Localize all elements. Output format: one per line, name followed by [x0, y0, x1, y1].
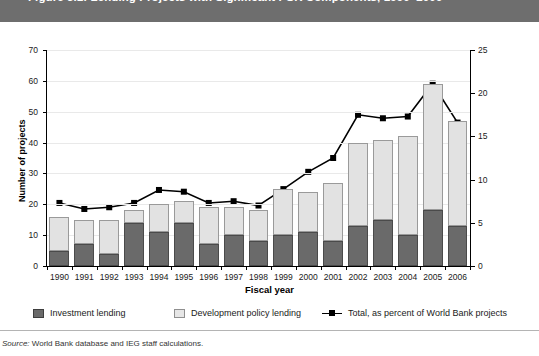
bar-segment-investment-lending[interactable] [398, 235, 418, 266]
bar-segment-investment-lending[interactable] [298, 232, 318, 266]
y-axis-right-tick [471, 50, 475, 51]
x-axis-tick [420, 266, 421, 270]
legend-item-development-policy-lending: Development policy lending [174, 308, 301, 318]
bar-group [47, 50, 470, 266]
x-axis-tick [97, 266, 98, 270]
y-axis-left-title: Number of projects [17, 119, 27, 202]
y-axis-right-tick-label: 0 [478, 261, 502, 271]
x-axis-tick [271, 266, 272, 270]
bar-segment-development-policy-lending[interactable] [373, 140, 393, 220]
bar-segment-development-policy-lending[interactable] [224, 207, 244, 235]
bar-segment-investment-lending[interactable] [249, 241, 269, 266]
x-axis-tick [196, 266, 197, 270]
x-axis-tick [246, 266, 247, 270]
x-axis-tick [321, 266, 322, 270]
y-axis-right-tick [471, 223, 475, 224]
bar-segment-development-policy-lending[interactable] [149, 204, 169, 232]
legend-item-total-percent: Total, as percent of World Bank projects [322, 308, 507, 318]
chart-legend: Investment lending Development policy le… [0, 306, 539, 324]
bar-segment-development-policy-lending[interactable] [423, 84, 443, 211]
bar-segment-investment-lending[interactable] [423, 210, 443, 266]
bar-segment-investment-lending[interactable] [323, 241, 343, 266]
bar-segment-investment-lending[interactable] [348, 226, 368, 266]
bar-segment-investment-lending[interactable] [448, 226, 468, 266]
bar-segment-development-policy-lending[interactable] [199, 207, 219, 244]
x-axis-tick [370, 266, 371, 270]
y-axis-right-tick-label: 20 [478, 88, 502, 98]
bar-column-2003[interactable] [373, 50, 393, 266]
x-axis-tick-label-2006: 2006 [438, 272, 478, 282]
bar-column-1999[interactable] [273, 50, 293, 266]
y-axis-left-tick-label: 0 [14, 261, 38, 271]
bar-column-1997[interactable] [224, 50, 244, 266]
figure-title-band: Figure 5.1: Lending Projects with Signif… [0, 0, 539, 22]
y-axis-right-tick-label: 10 [478, 175, 502, 185]
x-axis-tick [296, 266, 297, 270]
bar-segment-investment-lending[interactable] [199, 244, 219, 266]
bar-column-2004[interactable] [398, 50, 418, 266]
bar-column-1991[interactable] [74, 50, 94, 266]
bar-segment-development-policy-lending[interactable] [398, 136, 418, 235]
y-axis-left-tick-label: 10 [14, 230, 38, 240]
bar-segment-investment-lending[interactable] [174, 223, 194, 266]
legend-label-investment-lending: Investment lending [50, 308, 126, 318]
bar-segment-development-policy-lending[interactable] [298, 192, 318, 232]
bar-segment-investment-lending[interactable] [149, 232, 169, 266]
bar-column-2002[interactable] [348, 50, 368, 266]
bar-segment-development-policy-lending[interactable] [348, 143, 368, 226]
y-axis-right-tick [471, 136, 475, 137]
x-axis-tick [346, 266, 347, 270]
x-axis-tick [122, 266, 123, 270]
bar-segment-development-policy-lending[interactable] [174, 201, 194, 223]
y-axis-right-tick [471, 93, 475, 94]
source-text: World Bank database and IEG staff calcul… [32, 339, 203, 348]
bar-segment-investment-lending[interactable] [74, 244, 94, 266]
x-axis-line [46, 266, 471, 267]
x-axis-tick [171, 266, 172, 270]
legend-line-marker-icon [322, 309, 342, 318]
bar-segment-investment-lending[interactable] [273, 235, 293, 266]
bar-segment-development-policy-lending[interactable] [249, 210, 269, 241]
bar-segment-investment-lending[interactable] [373, 220, 393, 266]
bar-column-2001[interactable] [323, 50, 343, 266]
bar-column-1992[interactable] [99, 50, 119, 266]
bar-segment-development-policy-lending[interactable] [448, 121, 468, 226]
x-axis-tick [470, 266, 471, 270]
legend-label-development-policy-lending: Development policy lending [191, 308, 301, 318]
legend-swatch-investment-icon [33, 309, 44, 318]
legend-swatch-policy-icon [174, 309, 185, 318]
y-axis-left-tick-label: 70 [14, 45, 38, 55]
bar-column-1990[interactable] [49, 50, 69, 266]
x-axis-tick [445, 266, 446, 270]
bar-segment-development-policy-lending[interactable] [49, 217, 69, 251]
bar-segment-investment-lending[interactable] [99, 254, 119, 266]
bar-segment-development-policy-lending[interactable] [74, 220, 94, 245]
bar-segment-development-policy-lending[interactable] [124, 210, 144, 222]
bar-column-1994[interactable] [149, 50, 169, 266]
y-axis-right-tick [471, 266, 475, 267]
bar-column-2006[interactable] [448, 50, 468, 266]
bar-column-1996[interactable] [199, 50, 219, 266]
legend-item-investment-lending: Investment lending [33, 308, 126, 318]
bar-segment-investment-lending[interactable] [124, 223, 144, 266]
y-axis-left-tick-label: 50 [14, 107, 38, 117]
bar-column-1995[interactable] [174, 50, 194, 266]
x-axis-tick [221, 266, 222, 270]
legend-label-total-percent: Total, as percent of World Bank projects [348, 308, 507, 318]
source-note: Source: World Bank database and IEG staf… [2, 339, 203, 348]
bar-column-2005[interactable] [423, 50, 443, 266]
bar-column-1993[interactable] [124, 50, 144, 266]
y-axis-right-tick-label: 15 [478, 131, 502, 141]
bar-column-2000[interactable] [298, 50, 318, 266]
bar-segment-investment-lending[interactable] [49, 251, 69, 266]
bar-segment-development-policy-lending[interactable] [323, 183, 343, 242]
y-axis-right-tick [471, 180, 475, 181]
y-axis-left-tick-label: 60 [14, 76, 38, 86]
bar-segment-investment-lending[interactable] [224, 235, 244, 266]
bar-segment-development-policy-lending[interactable] [99, 220, 119, 254]
figure-container: Figure 5.1: Lending Projects with Signif… [0, 0, 539, 356]
x-axis-title: Fiscal year [0, 284, 539, 295]
divider-rule [0, 330, 539, 331]
bar-segment-development-policy-lending[interactable] [273, 189, 293, 235]
bar-column-1998[interactable] [249, 50, 269, 266]
